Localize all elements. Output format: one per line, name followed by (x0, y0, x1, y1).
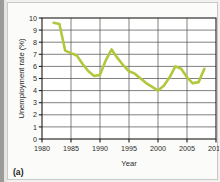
chart-figure-card: 0123456789101980198519901995200020052010… (7, 2, 218, 180)
x-axis-tick-label: 1985 (63, 144, 79, 153)
y-axis-tick-label: 8 (33, 38, 37, 47)
y-axis-tick-label: 9 (33, 26, 37, 35)
y-axis-tick-label: 6 (33, 62, 37, 71)
y-axis-tick-label: 4 (33, 86, 37, 95)
x-axis-tick-label: 1980 (34, 144, 50, 153)
x-axis-tick-label: 2005 (179, 144, 195, 153)
x-axis-tick-label: 1995 (121, 144, 137, 153)
line-chart: 0123456789101980198519901995200020052010… (8, 3, 219, 181)
page-background: 0123456789101980198519901995200020052010… (0, 0, 220, 182)
y-axis-tick-label: 1 (33, 123, 37, 132)
y-axis-tick-label: 5 (33, 74, 37, 83)
x-axis-tick-label: 1990 (92, 144, 108, 153)
panel-letter: (a) (13, 167, 24, 177)
x-axis-tick-label: 2010 (208, 144, 219, 153)
y-axis-tick-label: 0 (33, 135, 37, 144)
y-axis-tick-label: 3 (33, 98, 37, 107)
y-axis-title: Unemployment rate (%) (17, 38, 26, 119)
x-axis-tick-label: 2000 (150, 144, 166, 153)
y-axis-tick-label: 10 (29, 14, 37, 23)
chart-plot-wrapper: 0123456789101980198519901995200020052010… (8, 3, 219, 181)
y-axis-tick-label: 7 (33, 50, 37, 59)
x-axis-title: Year (121, 159, 137, 168)
y-axis-tick-label: 2 (33, 110, 37, 119)
